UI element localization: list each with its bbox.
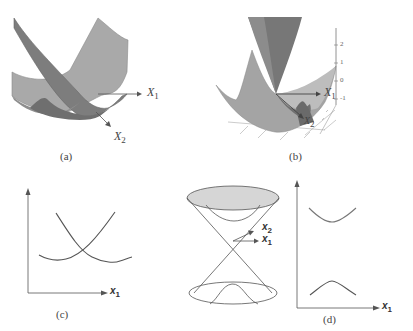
z-tick-1: 1 (340, 58, 344, 66)
z-tick-neg1: -1 (340, 94, 346, 102)
panel-caption: (a) (60, 150, 72, 162)
panel-caption: (c) (56, 308, 68, 320)
z-tick-2: 2 (340, 40, 344, 48)
panel-caption: (b) (289, 150, 302, 162)
double-cone-and-avoided-crossing (180, 165, 413, 331)
panel-c: x1 (c) (0, 165, 180, 331)
conical-intersection-surface-3d (200, 0, 413, 165)
axis-label-x1: X1 (147, 85, 159, 101)
crossing-surfaces-3d (0, 0, 200, 165)
z-tick-0: 0 (340, 76, 344, 84)
axis-label-x2: X2 (304, 115, 315, 129)
plot-axis-label-x1: x1 (382, 300, 392, 314)
panel-caption: (d) (323, 313, 336, 325)
crossing-parabolas-plot (0, 165, 180, 331)
cone-axis-label-x1: x1 (262, 233, 272, 247)
panel-a: X1 X2 (a) (0, 0, 200, 165)
panel-d: x2 x1 x1 (d) (180, 165, 413, 331)
axis-label-x2: X2 (114, 129, 126, 145)
panel-b: 2 1 0 -1 X1 X2 (b) (200, 0, 413, 165)
axis-label-x1: X1 (324, 85, 336, 101)
axis-label-x1: x1 (110, 285, 120, 299)
